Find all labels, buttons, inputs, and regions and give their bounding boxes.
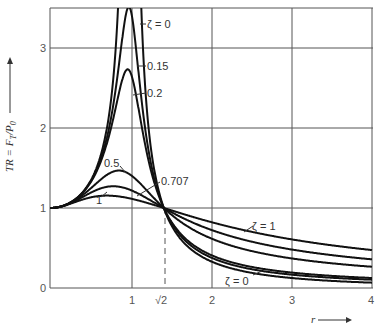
x-tick-3: 3 (289, 294, 295, 306)
x-tick-1: 1 (129, 294, 135, 306)
curve-0 (131, 0, 372, 283)
curve-0 (50, 0, 130, 208)
x-axis-arrow-icon (318, 317, 352, 323)
x-axis-label: r (311, 313, 316, 325)
curve-0.5 (50, 171, 372, 267)
label-zeta-0-707: 0.707 (161, 175, 189, 187)
label-zeta-0-5: 0.5 (104, 157, 119, 169)
y-axis-arrow-icon (7, 57, 13, 113)
y-tick-3: 3 (40, 42, 46, 54)
x-tick-2: 2 (209, 294, 215, 306)
y-axis-label: TR = FT/P0 (3, 121, 18, 172)
curve-0.2 (50, 69, 372, 278)
svg-text:TR = FT/P0: TR = FT/P0 (3, 121, 18, 172)
transmissibility-chart: ζ = 0 0.15 0.2 0.5 0.707 1 ζ = 1 ζ = 0 0… (0, 0, 380, 333)
grid (50, 8, 373, 288)
label-zeta-1-left: 1 (96, 194, 102, 206)
x-tick-sqrt2: √2 (155, 294, 167, 306)
y-tick-0: 0 (40, 282, 46, 294)
label-zeta-0-15: 0.15 (147, 60, 168, 72)
curves (50, 0, 372, 283)
label-zeta-1-right: ζ = 1 (252, 220, 276, 232)
x-tick-4: 4 (368, 294, 374, 306)
label-zeta-0-bottom: ζ = 0 (225, 275, 249, 287)
y-tick-2: 2 (40, 122, 46, 134)
label-zeta-0-top: ζ = 0 (147, 18, 171, 30)
y-tick-1: 1 (40, 202, 46, 214)
label-zeta-0-2: 0.2 (147, 87, 162, 99)
